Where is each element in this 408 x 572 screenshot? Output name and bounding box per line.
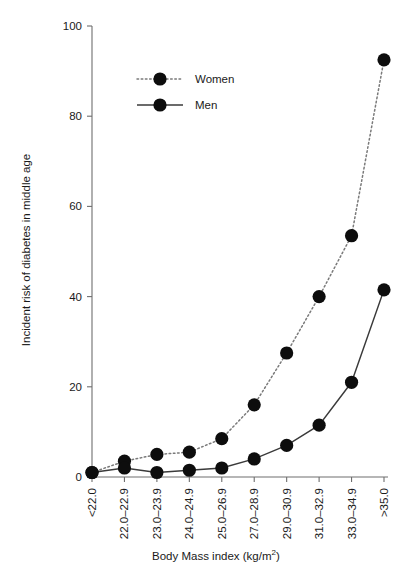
data-point-women — [280, 346, 293, 359]
x-axis-tick-label: 29.0–30.9 — [281, 488, 293, 539]
data-point-men — [150, 466, 163, 479]
data-point-men — [313, 419, 326, 432]
x-axis-title: Body Mass index (kg/m 2 ) — [152, 548, 280, 562]
legend-item-women: Women — [137, 72, 234, 85]
series-line-women — [92, 60, 384, 473]
diabetes-risk-line-chart: 020406080100 <22.022.0–22.923.0–23.924.0… — [0, 0, 408, 572]
data-point-women — [345, 229, 358, 242]
y-axis-tick-label: 80 — [69, 110, 82, 122]
y-axis: 020406080100 — [63, 20, 92, 483]
legend-swatch-marker-women — [153, 72, 166, 85]
data-point-men — [85, 466, 98, 479]
x-axis-title-tail: ) — [276, 550, 280, 562]
legend-swatch-marker-men — [153, 98, 166, 111]
data-point-men — [280, 439, 293, 452]
y-axis-tick-label: 0 — [76, 471, 82, 483]
series-line-men — [92, 290, 384, 473]
legend-label-men: Men — [195, 99, 217, 111]
data-point-men — [118, 461, 131, 474]
data-point-women — [150, 448, 163, 461]
data-point-women — [215, 432, 228, 445]
x-axis-tick-label: >35.0 — [378, 488, 390, 517]
data-point-women — [377, 53, 390, 66]
data-point-women — [248, 398, 261, 411]
y-axis-title: Incident risk of diabetes in middle age — [20, 154, 32, 346]
chart-legend: WomenMen — [137, 72, 234, 111]
legend-item-men: Men — [137, 98, 217, 111]
x-axis-title-text: Body Mass index (kg/m — [152, 550, 272, 562]
y-axis-tick-label: 100 — [63, 20, 82, 32]
y-axis-tick-label: 60 — [69, 200, 82, 212]
data-point-women — [183, 446, 196, 459]
data-point-men — [345, 376, 358, 389]
data-series-group — [85, 53, 390, 479]
x-axis: <22.022.0–22.923.0–23.924.0–24.925.0–26.… — [86, 477, 390, 539]
x-axis-tick-label: 23.0–23.9 — [151, 488, 163, 539]
x-axis-tick-label: 27.0–28.9 — [248, 488, 260, 539]
data-point-men — [183, 464, 196, 477]
data-point-women — [313, 290, 326, 303]
x-axis-tick-label: 24.0–24.9 — [183, 488, 195, 539]
x-axis-tick-label: <22.0 — [86, 488, 98, 517]
data-point-men — [377, 283, 390, 296]
x-axis-tick-label: 33.0–34.9 — [346, 488, 358, 539]
x-axis-tick-label: 31.0–32.9 — [313, 488, 325, 539]
x-axis-tick-label: 25.0–26.9 — [216, 488, 228, 539]
legend-label-women: Women — [195, 73, 234, 85]
chart-figure: 020406080100 <22.022.0–22.923.0–23.924.0… — [0, 0, 408, 572]
data-point-men — [215, 461, 228, 474]
data-point-men — [248, 452, 261, 465]
x-axis-tick-label: 22.0–22.9 — [118, 488, 130, 539]
y-axis-tick-label: 40 — [69, 291, 82, 303]
y-axis-tick-label: 20 — [69, 381, 82, 393]
